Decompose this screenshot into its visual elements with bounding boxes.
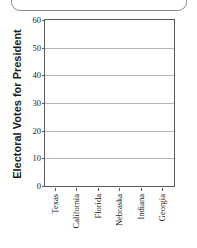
y-tick-label: 20 bbox=[15, 126, 41, 135]
x-tick-label: Indiana bbox=[141, 169, 150, 195]
y-tick-mark bbox=[42, 186, 45, 187]
x-tick-label-text: Indiana bbox=[136, 194, 145, 220]
bar-series bbox=[45, 20, 174, 186]
x-tick-label-text: Texas bbox=[50, 194, 59, 214]
bar-chart-figure: Electoral Votes for President 0102030405… bbox=[0, 0, 197, 248]
y-tick-label: 40 bbox=[15, 71, 41, 80]
x-tick-label: Nebraska bbox=[119, 162, 128, 194]
x-tick-label: Florida bbox=[98, 169, 107, 194]
y-tick-label: 50 bbox=[15, 43, 41, 52]
x-tick-label-text: Nebraska bbox=[115, 194, 124, 226]
plot-area: 0102030405060 bbox=[44, 19, 175, 187]
x-tick-label: California bbox=[76, 160, 85, 194]
x-tick-label: Texas bbox=[55, 174, 64, 194]
chart-page: Electoral Votes for President 0102030405… bbox=[0, 0, 197, 248]
x-tick-label-text: California bbox=[72, 194, 81, 228]
y-tick-label: 60 bbox=[15, 16, 41, 25]
y-tick-label: 30 bbox=[15, 99, 41, 108]
x-tick-label-text: Florida bbox=[93, 194, 102, 219]
x-tick-label: Georgia bbox=[162, 167, 171, 194]
y-tick-label: 0 bbox=[15, 182, 41, 191]
y-tick-label: 10 bbox=[15, 154, 41, 163]
x-axis-ticks: TexasCaliforniaFloridaNebraskaIndianaGeo… bbox=[44, 188, 175, 248]
x-tick-label-text: Georgia bbox=[158, 194, 167, 221]
